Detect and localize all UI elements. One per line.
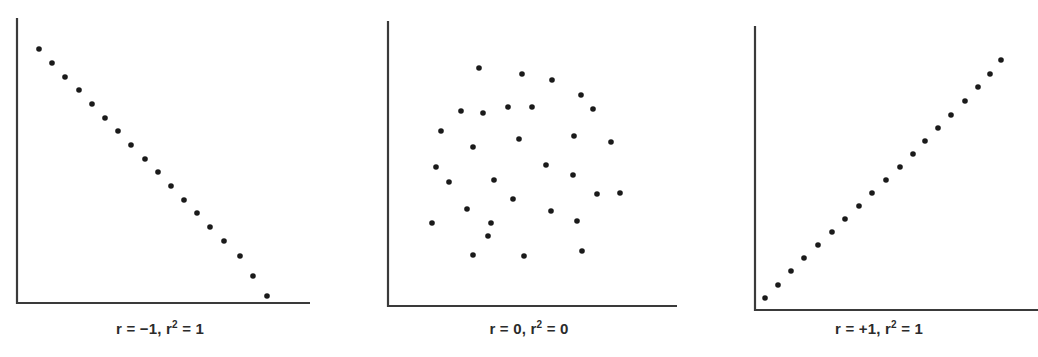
data-point — [470, 144, 476, 150]
data-point — [842, 216, 848, 222]
data-point — [910, 151, 916, 157]
data-point — [476, 65, 482, 71]
data-point — [617, 190, 623, 196]
axes-positive — [754, 26, 1038, 311]
data-points-negative — [36, 46, 270, 299]
data-point — [485, 233, 491, 239]
data-point — [128, 142, 134, 148]
data-point — [775, 282, 781, 288]
caption-text-main: r = 0, r — [489, 320, 536, 337]
data-point — [948, 112, 954, 118]
data-point — [570, 172, 576, 178]
data-point — [856, 203, 862, 209]
data-point — [264, 293, 270, 299]
panel-negative-correlation: r = −1, r2 = 1 — [0, 0, 346, 357]
caption-text-tail: = 1 — [178, 320, 204, 337]
data-point — [89, 101, 95, 107]
data-point — [590, 106, 596, 112]
data-point — [579, 248, 585, 254]
data-point — [168, 183, 174, 189]
data-point — [446, 179, 452, 185]
caption-text-main: r = +1, r — [835, 320, 891, 337]
caption-text-main: r = −1, r — [116, 320, 172, 337]
data-point — [438, 128, 444, 134]
data-point — [869, 190, 875, 196]
data-point — [76, 87, 82, 93]
caption-text-tail: = 0 — [542, 320, 568, 337]
data-point — [543, 162, 549, 168]
data-point — [480, 110, 486, 116]
data-point — [788, 268, 794, 274]
data-point — [510, 196, 516, 202]
data-point — [548, 208, 554, 214]
data-point — [429, 220, 435, 226]
data-point — [594, 191, 600, 197]
scatter-plot-positive — [692, 0, 1038, 357]
data-point — [491, 177, 497, 183]
data-point — [935, 125, 941, 131]
data-point — [207, 224, 213, 230]
data-point — [574, 218, 580, 224]
data-point — [897, 164, 903, 170]
data-point — [194, 210, 200, 216]
data-point — [488, 220, 494, 226]
data-point — [815, 242, 821, 248]
caption-text-tail: = 1 — [897, 320, 923, 337]
data-points-positive — [762, 57, 1004, 301]
data-point — [181, 197, 187, 203]
data-point — [505, 104, 511, 110]
data-point — [529, 104, 535, 110]
data-point — [521, 253, 527, 259]
data-point — [516, 136, 522, 142]
data-point — [922, 138, 928, 144]
data-point — [464, 206, 470, 212]
data-point — [142, 156, 148, 162]
panel-positive-correlation: r = +1, r2 = 1 — [692, 0, 1038, 357]
data-point — [250, 273, 256, 279]
data-point — [458, 108, 464, 114]
data-point — [608, 139, 614, 145]
scatter-plot-negative — [0, 0, 346, 357]
data-point — [519, 71, 525, 77]
data-point — [549, 77, 555, 83]
data-point — [975, 84, 981, 90]
panel-zero-correlation: r = 0, r2 = 0 — [346, 0, 692, 357]
data-point — [801, 255, 807, 261]
caption-positive: r = +1, r2 = 1 — [734, 320, 1024, 337]
caption-negative: r = −1, r2 = 1 — [0, 320, 320, 337]
data-point — [155, 169, 161, 175]
data-point — [221, 238, 227, 244]
correlation-figure: r = −1, r2 = 1 — [0, 0, 1038, 357]
data-points-zero — [429, 65, 623, 259]
data-point — [962, 98, 968, 104]
data-point — [829, 229, 835, 235]
axes-zero — [387, 21, 677, 307]
scatter-plot-zero — [346, 0, 692, 357]
data-point — [49, 60, 55, 66]
data-point — [987, 71, 993, 77]
data-point — [433, 164, 439, 170]
data-point — [470, 252, 476, 258]
data-point — [998, 57, 1004, 63]
data-point — [762, 295, 768, 301]
data-point — [571, 133, 577, 139]
data-point — [36, 46, 42, 52]
data-point — [237, 253, 243, 259]
data-point — [578, 92, 584, 98]
caption-zero: r = 0, r2 = 0 — [384, 320, 674, 337]
data-point — [883, 177, 889, 183]
data-point — [102, 115, 108, 121]
data-point — [115, 128, 121, 134]
axes-negative — [16, 18, 310, 304]
data-point — [62, 74, 68, 80]
